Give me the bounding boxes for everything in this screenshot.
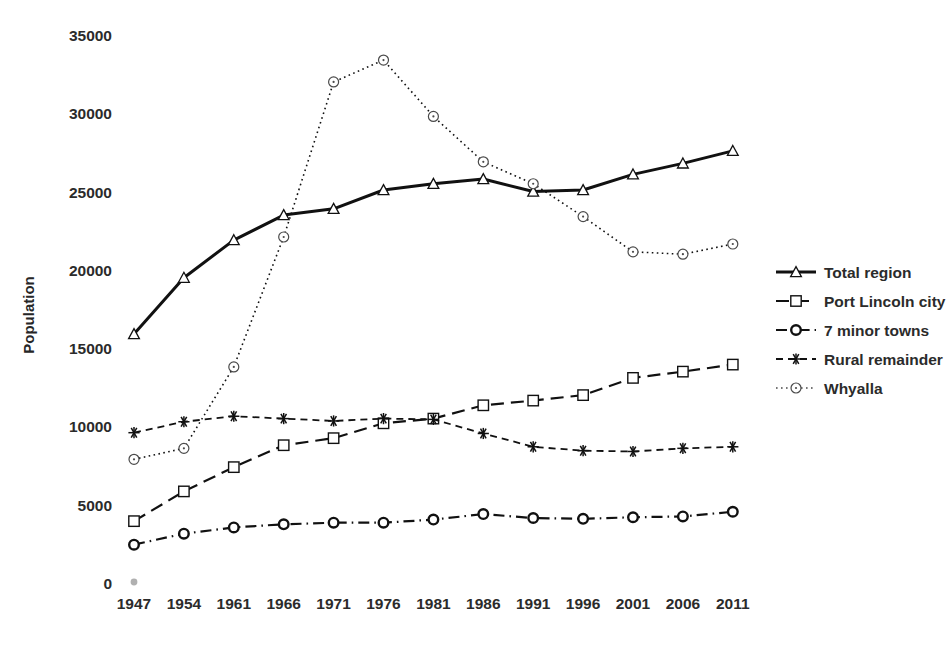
series-container (128, 55, 738, 549)
y-axis-title: Population (20, 276, 37, 354)
x-tick-label: 2006 (666, 595, 701, 612)
x-tick-label: 1961 (217, 595, 252, 612)
data-point-marker (678, 366, 688, 376)
x-tick-label: 1996 (566, 595, 601, 612)
legend-item-total-region[interactable]: Total region (776, 264, 912, 281)
legend-item-whyalla[interactable]: Whyalla (776, 380, 883, 397)
data-point-marker (129, 540, 139, 550)
data-point-marker (229, 462, 239, 472)
data-point-marker (678, 512, 688, 522)
data-point-marker (279, 440, 289, 450)
data-point-marker (528, 513, 538, 523)
legend-label: Whyalla (824, 380, 883, 397)
x-tick-label: 1981 (416, 595, 451, 612)
series-7-minor-towns (129, 507, 737, 549)
data-point-marker-center (732, 243, 734, 245)
data-point-marker-center (682, 253, 684, 255)
series-rural-remainder (128, 411, 738, 457)
y-tick-label: 20000 (69, 262, 112, 279)
series-total-region (129, 145, 739, 338)
data-point-marker (578, 390, 588, 400)
data-point-marker-center (183, 447, 185, 449)
legend-label: Port Lincoln city (824, 293, 946, 310)
data-point-marker (129, 516, 139, 526)
data-point-marker-center (233, 366, 235, 368)
y-tick-label: 30000 (69, 105, 112, 122)
origin-dot (131, 579, 138, 586)
data-point-marker (279, 519, 289, 529)
x-tick-label: 1976 (366, 595, 401, 612)
data-point-marker-center (333, 81, 335, 83)
data-point-marker-center (582, 216, 584, 218)
data-point-marker (528, 395, 538, 405)
data-point-marker-center (795, 387, 797, 389)
data-point-marker (429, 515, 439, 525)
data-point-marker-center (632, 251, 634, 253)
data-point-marker-center (532, 183, 534, 185)
data-point-marker (791, 325, 801, 335)
x-tick-label: 2011 (716, 595, 750, 612)
y-axis-tick-labels: 05000100001500020000250003000035000 (69, 27, 112, 592)
y-tick-label: 5000 (78, 497, 112, 514)
data-point-marker (179, 529, 189, 539)
series-port-lincoln-city (129, 359, 738, 526)
data-point-marker (578, 514, 588, 524)
y-tick-label: 15000 (69, 340, 112, 357)
y-tick-label: 25000 (69, 184, 112, 201)
legend-item-port-lincoln-city[interactable]: Port Lincoln city (776, 293, 946, 310)
x-tick-label: 1966 (266, 595, 301, 612)
data-point-marker (329, 518, 339, 528)
data-point-marker (479, 509, 489, 519)
data-point-marker-center (432, 115, 434, 117)
y-tick-label: 35000 (69, 27, 112, 44)
data-point-marker (478, 400, 488, 410)
legend-label: Total region (824, 264, 912, 281)
series-line (134, 365, 733, 522)
chart-legend: Total regionPort Lincoln city7 minor tow… (776, 264, 946, 397)
data-point-marker (229, 523, 239, 533)
y-tick-label: 0 (103, 575, 112, 592)
annotation-container (131, 579, 138, 586)
y-tick-label: 10000 (69, 418, 112, 435)
x-tick-label: 2001 (616, 595, 651, 612)
data-point-marker (791, 296, 801, 306)
series-whyalla (129, 55, 738, 464)
data-point-marker (379, 518, 389, 528)
data-point-marker (628, 373, 638, 383)
legend-item-rural-remainder[interactable]: Rural remainder (776, 351, 943, 368)
x-tick-label: 1954 (167, 595, 202, 612)
data-point-marker-center (283, 236, 285, 238)
x-tick-label: 1947 (117, 595, 151, 612)
x-tick-label: 1986 (466, 595, 501, 612)
data-point-marker-center (482, 161, 484, 163)
data-point-marker (728, 507, 738, 517)
x-tick-label: 1991 (516, 595, 551, 612)
x-axis-tick-labels: 1947195419611966197119761981198619911996… (117, 595, 750, 612)
population-line-chart: 05000100001500020000250003000035000 1947… (0, 0, 952, 646)
data-point-marker (179, 486, 189, 496)
data-point-marker (328, 433, 338, 443)
legend-label: Rural remainder (824, 351, 943, 368)
data-point-marker-center (382, 59, 384, 61)
chart-root: 05000100001500020000250003000035000 1947… (0, 0, 952, 646)
x-tick-label: 1971 (316, 595, 351, 612)
data-point-marker (728, 359, 738, 369)
data-point-marker (628, 512, 638, 522)
legend-item-7-minor-towns[interactable]: 7 minor towns (776, 322, 929, 339)
legend-label: 7 minor towns (824, 322, 929, 339)
data-point-marker-center (133, 458, 135, 460)
